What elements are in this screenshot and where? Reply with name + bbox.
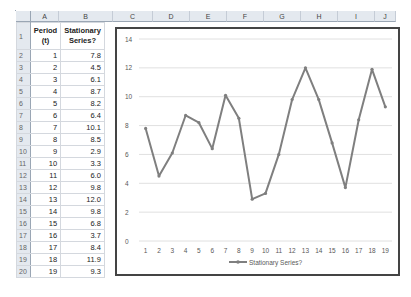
row-number[interactable]: 15 <box>17 206 31 218</box>
value-cell[interactable]: 8.5 <box>61 134 105 146</box>
column-header-a[interactable]: A <box>31 11 59 22</box>
select-all-corner[interactable] <box>16 11 31 22</box>
column-header-i[interactable]: I <box>338 11 375 22</box>
period-cell[interactable]: 7 <box>30 122 60 134</box>
period-cell[interactable]: 16 <box>30 230 60 242</box>
column-header-cell[interactable]: Period(t) <box>30 23 60 50</box>
value-cell[interactable]: 3.7 <box>61 230 105 242</box>
data-point[interactable] <box>384 105 387 108</box>
period-cell[interactable]: 15 <box>30 218 60 230</box>
value-cell[interactable]: 8.7 <box>61 86 105 98</box>
column-header-d[interactable]: D <box>153 11 190 22</box>
period-cell[interactable]: 18 <box>30 254 60 266</box>
value-cell[interactable]: 7.8 <box>61 50 105 62</box>
period-cell[interactable]: 13 <box>30 194 60 206</box>
value-cell[interactable]: 6.8 <box>61 218 105 230</box>
value-cell[interactable]: 10.1 <box>61 122 105 134</box>
column-header-h[interactable]: H <box>301 11 338 22</box>
row-number[interactable]: 11 <box>17 158 31 170</box>
period-cell[interactable]: 4 <box>30 86 60 98</box>
row-number[interactable]: 4 <box>17 74 31 86</box>
data-point[interactable] <box>224 94 227 97</box>
value-cell[interactable]: 8.2 <box>61 98 105 110</box>
column-header-e[interactable]: E <box>190 11 227 22</box>
data-point[interactable] <box>211 147 214 150</box>
row-number[interactable]: 9 <box>17 134 31 146</box>
data-point[interactable] <box>251 198 254 201</box>
row-number[interactable]: 5 <box>17 86 31 98</box>
column-header-b[interactable]: B <box>59 11 113 22</box>
x-tick-label: 4 <box>184 247 188 254</box>
value-cell[interactable]: 9.8 <box>61 182 105 194</box>
period-cell[interactable]: 19 <box>30 266 60 278</box>
data-point[interactable] <box>344 186 347 189</box>
row-number[interactable]: 1 <box>17 23 31 50</box>
row-number[interactable]: 8 <box>17 122 31 134</box>
x-tick-label: 1 <box>144 247 148 254</box>
value-cell[interactable]: 9.3 <box>61 266 105 278</box>
data-point[interactable] <box>317 98 320 101</box>
y-tick-label: 4 <box>125 180 129 187</box>
period-cell[interactable]: 10 <box>30 158 60 170</box>
table-row: 548.7 <box>17 86 105 98</box>
period-cell[interactable]: 12 <box>30 182 60 194</box>
column-header-f[interactable]: F <box>227 11 264 22</box>
value-cell[interactable]: 8.4 <box>61 242 105 254</box>
row-number[interactable]: 2 <box>17 50 31 62</box>
row-number[interactable]: 7 <box>17 110 31 122</box>
table-row: 8710.1 <box>17 122 105 134</box>
period-cell[interactable]: 5 <box>30 98 60 110</box>
row-number[interactable]: 20 <box>17 266 31 278</box>
value-cell[interactable]: 12.0 <box>61 194 105 206</box>
value-cell[interactable]: 9.8 <box>61 206 105 218</box>
data-point[interactable] <box>277 153 280 156</box>
value-cell[interactable]: 6.4 <box>61 110 105 122</box>
row-number[interactable]: 18 <box>17 242 31 254</box>
data-point[interactable] <box>184 114 187 117</box>
data-point[interactable] <box>237 117 240 120</box>
row-number[interactable]: 6 <box>17 98 31 110</box>
data-point[interactable] <box>264 192 267 195</box>
value-cell[interactable]: 11.9 <box>61 254 105 266</box>
value-cell[interactable]: 6.0 <box>61 170 105 182</box>
value-cell[interactable]: 6.1 <box>61 74 105 86</box>
data-point[interactable] <box>197 121 200 124</box>
column-header-c[interactable]: C <box>113 11 153 22</box>
period-cell[interactable]: 1 <box>30 50 60 62</box>
data-point[interactable] <box>304 66 307 69</box>
data-point[interactable] <box>291 98 294 101</box>
data-point[interactable] <box>171 151 174 154</box>
row-number[interactable]: 17 <box>17 230 31 242</box>
period-cell[interactable]: 11 <box>30 170 60 182</box>
column-header-g[interactable]: G <box>264 11 301 22</box>
row-number[interactable]: 14 <box>17 194 31 206</box>
period-cell[interactable]: 17 <box>30 242 60 254</box>
row-number[interactable]: 19 <box>17 254 31 266</box>
row-number[interactable]: 13 <box>17 182 31 194</box>
row-number[interactable]: 10 <box>17 146 31 158</box>
value-cell[interactable]: 4.5 <box>61 62 105 74</box>
period-cell[interactable]: 14 <box>30 206 60 218</box>
table-row: 141312.0 <box>17 194 105 206</box>
chart-legend[interactable]: Stationary Series? <box>229 259 302 267</box>
period-cell[interactable]: 2 <box>30 62 60 74</box>
data-point[interactable] <box>330 141 333 144</box>
data-point[interactable] <box>144 127 147 130</box>
row-number[interactable]: 3 <box>17 62 31 74</box>
column-header-j[interactable]: J <box>375 11 396 22</box>
period-cell[interactable]: 6 <box>30 110 60 122</box>
column-headers: A B C D E F G H I J <box>16 11 396 22</box>
data-point[interactable] <box>357 118 360 121</box>
period-cell[interactable]: 9 <box>30 146 60 158</box>
value-cell[interactable]: 2.9 <box>61 146 105 158</box>
x-tick-label: 11 <box>275 247 282 254</box>
value-cell[interactable]: 3.3 <box>61 158 105 170</box>
period-cell[interactable]: 3 <box>30 74 60 86</box>
row-number[interactable]: 12 <box>17 170 31 182</box>
row-number[interactable]: 16 <box>17 218 31 230</box>
line-chart[interactable]: 0246810121412345678910111213141516171819… <box>115 27 400 276</box>
data-point[interactable] <box>370 68 373 71</box>
column-header-cell[interactable]: StationarySeries? <box>61 23 105 50</box>
period-cell[interactable]: 8 <box>30 134 60 146</box>
data-point[interactable] <box>157 174 160 177</box>
